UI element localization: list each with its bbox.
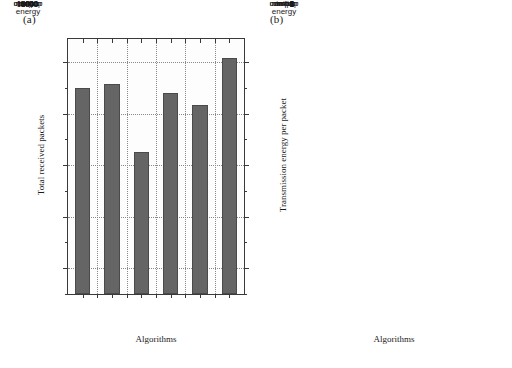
x-tick-mark [229,294,230,298]
x-gridline [185,39,186,294]
bar [75,88,90,294]
x-tick-label: cmrpc [256,0,312,8]
y-tick-mark [244,217,249,218]
bar [192,105,207,294]
x-tick-mark [229,39,230,43]
x-tick-mark [156,39,157,43]
y-tick-mark [63,114,68,115]
panel-b-y-axis-title: Transmission energy per packet [278,40,288,270]
y-tick-mark [244,62,249,63]
x-tick-mark [171,294,172,298]
x-tick-mark [200,39,201,43]
panel-b-x-axis-title: Algorithms [301,334,487,344]
x-tick-mark [83,294,84,298]
x-tick-mark [141,294,142,298]
y-minor-tick-mark [244,242,247,243]
x-tick-mark [200,294,201,298]
x-gridline [127,39,128,294]
x-gridline [156,39,157,294]
x-tick-label: cmrpc [0,0,56,8]
x-tick-mark [171,39,172,43]
y-minor-tick-mark [244,139,247,140]
panel-a-x-axis-title: Algorithms [67,334,245,344]
y-minor-tick-mark [65,242,68,243]
x-tick-mark [112,39,113,43]
x-gridline [215,39,216,294]
y-tick-mark [244,268,249,269]
x-tick-mark [97,39,98,43]
panel-a-plot-area [67,38,245,295]
x-tick-mark [83,39,84,43]
x-tick-mark [127,294,128,298]
x-tick-mark [185,39,186,43]
y-tick-mark [244,114,249,115]
y-minor-tick-mark [244,191,247,192]
y-minor-tick-mark [244,88,247,89]
bar [104,84,119,294]
x-tick-mark [112,294,113,298]
panel-b: (b) Transmission energy per packet Algor… [256,0,512,368]
x-tick-mark [97,294,98,298]
y-minor-tick-mark [65,139,68,140]
y-minor-tick-mark [65,294,68,295]
y-minor-tick-mark [65,191,68,192]
panel-a-y-axis-title: Total received packets [36,70,46,240]
y-minor-tick-mark [244,294,247,295]
x-tick-mark [156,294,157,298]
y-tick-mark [63,268,68,269]
y-tick-mark [63,165,68,166]
x-tick-mark [185,294,186,298]
y-tick-mark [244,165,249,166]
x-tick-mark [215,39,216,43]
figure: (a) Total received packets Algorithms 60… [0,0,512,368]
bar [134,152,149,294]
y-tick-mark [63,217,68,218]
x-tick-mark [127,39,128,43]
bar [222,58,237,294]
panel-a: (a) Total received packets Algorithms 60… [0,0,256,368]
bar [163,93,178,294]
x-tick-mark [215,294,216,298]
x-gridline [97,39,98,294]
x-tick-mark [141,39,142,43]
y-tick-mark [63,62,68,63]
y-minor-tick-mark [65,88,68,89]
